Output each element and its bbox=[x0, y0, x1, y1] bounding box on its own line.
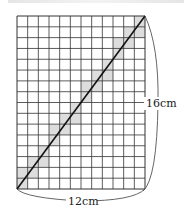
height-label: 16cm bbox=[146, 97, 177, 110]
width-label: 12cm bbox=[68, 195, 99, 208]
grid-diagram: 16cm 12cm bbox=[0, 0, 188, 217]
